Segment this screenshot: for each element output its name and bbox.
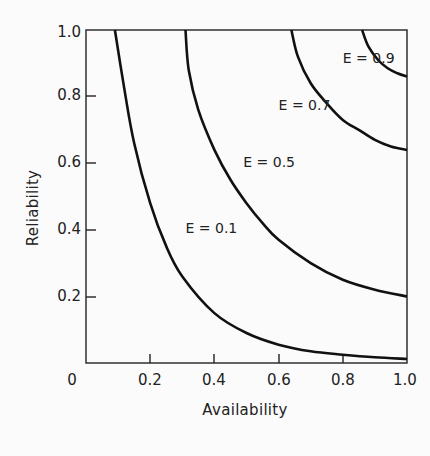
y-tick-label: 0.6 [57,153,81,171]
plot-frame [86,30,407,363]
x-tick-labels: 0 0.2 0.4 0.6 0.8 1.0 [67,371,417,389]
curve-label-e-0-1: E = 0.1 [186,220,238,236]
x-axis-ticks [150,354,343,363]
y-tick-label: 1.0 [57,23,81,41]
y-axis-title: Reliability [24,170,42,247]
x-tick-label: 1.0 [393,371,417,389]
x-tick-label: 0.2 [138,371,162,389]
curve-e-0-5 [186,30,408,296]
x-tick-label: 0.6 [267,371,291,389]
x-tick-label: 0.4 [202,371,226,389]
y-tick-labels: 0.2 0.4 0.6 0.8 1.0 [57,23,81,305]
curve-labels: E = 0.1 E = 0.5 E = 0.7 E = 0.9 [186,50,395,236]
y-tick-label: 0.2 [57,287,81,305]
iso-effectiveness-curves [115,30,407,359]
x-tick-label: 0.8 [331,371,355,389]
y-tick-label: 0.8 [57,86,81,104]
x-axis-title: Availability [202,401,287,419]
curve-e-0-7 [291,30,407,150]
curve-label-e-0-7: E = 0.7 [279,97,331,113]
y-axis-ticks [86,96,96,297]
curve-label-e-0-9: E = 0.9 [343,50,395,66]
reliability-availability-chart: 0 0.2 0.4 0.6 0.8 1.0 0.2 0.4 0.6 0.8 1.… [0,0,430,456]
curve-e-0-1 [115,30,407,359]
curve-label-e-0-5: E = 0.5 [243,154,295,170]
origin-label: 0 [67,371,77,389]
y-tick-label: 0.4 [57,220,81,238]
